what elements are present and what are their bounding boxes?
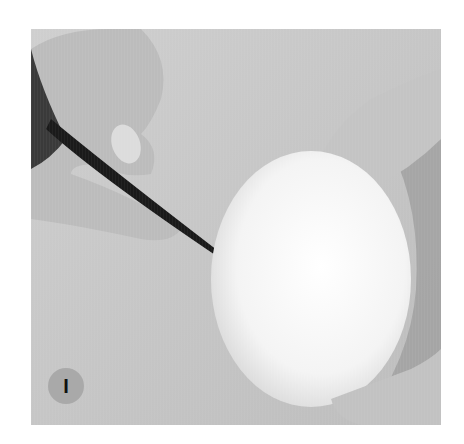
photo-scene	[31, 29, 441, 425]
step-label: I	[63, 376, 69, 396]
step-badge: I	[48, 368, 84, 404]
fabric-texture	[31, 29, 441, 425]
photo: I	[31, 29, 441, 425]
